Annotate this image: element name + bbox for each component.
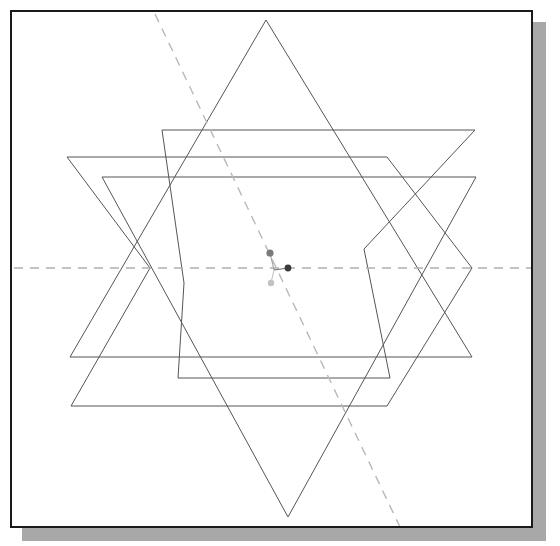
geometry-canvas xyxy=(10,10,533,528)
marker-right[interactable] xyxy=(285,265,292,272)
drawing-frame xyxy=(10,10,533,528)
marker-upper[interactable] xyxy=(266,249,273,256)
marker-lower[interactable] xyxy=(268,280,274,286)
figure-layer xyxy=(10,10,533,528)
screenshot-stage xyxy=(0,0,560,546)
diagonal-axis-dashed[interactable] xyxy=(155,14,400,527)
triangle-down[interactable] xyxy=(102,177,476,517)
inner-hexagon[interactable] xyxy=(162,130,475,378)
